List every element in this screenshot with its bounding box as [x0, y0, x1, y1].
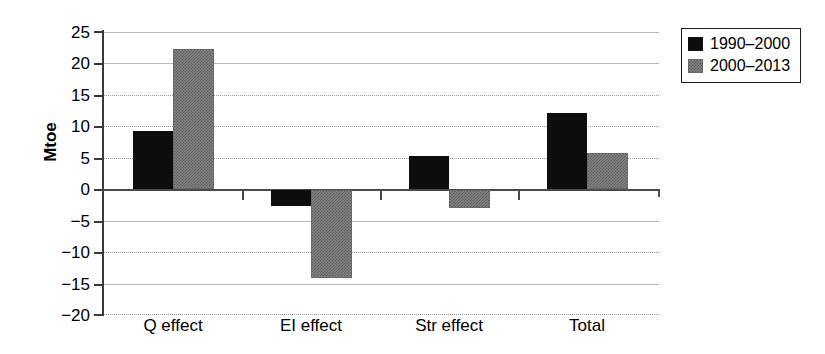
legend-swatch-black-icon [688, 37, 703, 51]
category-tick-3 [518, 191, 520, 200]
x-axis-label-ei-effect: EI effect [251, 316, 371, 336]
zero-baseline-endcap [658, 189, 660, 197]
x-axis-label-str-effect: Str effect [389, 316, 509, 336]
chart-screenshot: Mtoe 25 20 15 10 5 0 −5 −10 −15 −20 [0, 0, 825, 354]
bar-total-2000-2013[interactable] [587, 153, 628, 189]
category-tick-1 [242, 191, 244, 200]
legend-item-2000-2013[interactable]: 2000–2013 [688, 55, 794, 77]
y-tick-label-10: 10 [42, 118, 90, 135]
y-tick-label-5: 5 [42, 150, 90, 167]
y-tick-label-m15: −15 [42, 276, 90, 293]
y-tick-label-m10: −10 [42, 244, 90, 261]
y-axis-tick-label-group: 25 20 15 10 5 0 −5 −10 −15 −20 [38, 0, 90, 354]
bar-ei-effect-1990-2000[interactable] [271, 190, 311, 206]
y-tick-label-m5: −5 [42, 213, 90, 230]
bar-ei-effect-2000-2013[interactable] [311, 190, 352, 278]
y-tick-label-0: 0 [42, 181, 90, 198]
gridline-m5 [103, 221, 659, 223]
legend-item-1990-2000[interactable]: 1990–2000 [688, 33, 794, 55]
legend-label-2000-2013: 2000–2013 [710, 58, 790, 74]
legend-swatch-gray-icon [688, 59, 703, 73]
bar-total-1990-2000[interactable] [547, 113, 587, 189]
chart-legend: 1990–2000 2000–2013 [681, 28, 801, 83]
bar-q-effect-1990-2000[interactable] [133, 131, 173, 189]
y-tick-label-15: 15 [42, 87, 90, 104]
bar-str-effect-2000-2013[interactable] [449, 190, 490, 208]
y-tick-label-m20: −20 [42, 307, 90, 324]
bar-str-effect-1990-2000[interactable] [409, 156, 449, 189]
category-tick-2 [380, 191, 382, 200]
gridline-m10 [103, 252, 659, 254]
gridline-m15 [103, 284, 659, 286]
x-axis-label-q-effect: Q effect [113, 316, 233, 336]
x-axis-label-total: Total [527, 316, 647, 336]
legend-label-1990-2000: 1990–2000 [710, 36, 790, 52]
y-axis-line [102, 30, 104, 316]
y-tick-label-20: 20 [42, 55, 90, 72]
bar-q-effect-2000-2013[interactable] [173, 49, 214, 189]
y-tick-label-25: 25 [42, 24, 90, 41]
gridline-25 [103, 32, 659, 34]
